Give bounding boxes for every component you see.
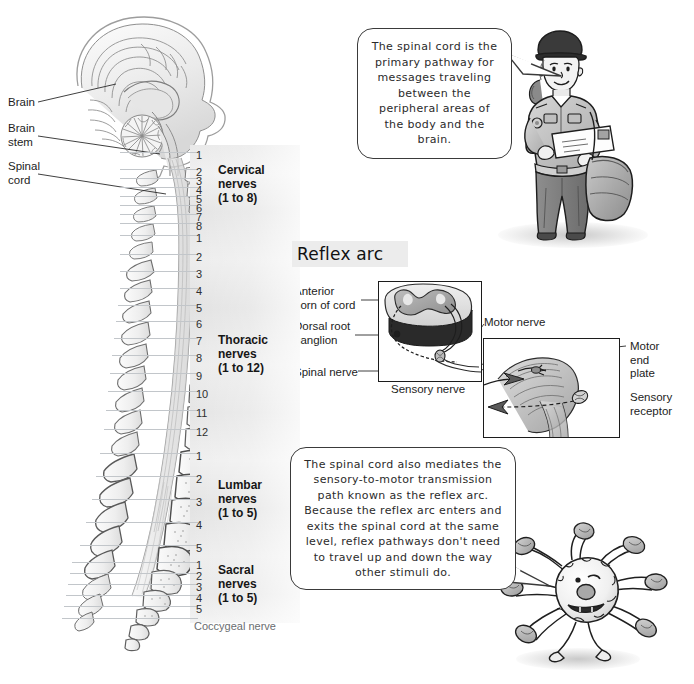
segment-number: 9 [196, 371, 212, 382]
segment-number: 10 [196, 389, 212, 400]
segment-number: 3 [196, 269, 212, 280]
segment-number: 7 [196, 336, 212, 347]
bottom-callout-bubble: The spinal cord also mediates the sensor… [290, 447, 516, 590]
nerve-group-lumbar: Lumbar nerves (1 to 5) [218, 478, 262, 520]
segment-number: 8 [196, 353, 212, 364]
top-callout-text: The spinal cord is the primary pathway f… [370, 39, 499, 148]
reflex-arc-title: Reflex arc [297, 244, 383, 264]
top-callout-bubble: The spinal cord is the primary pathway f… [357, 28, 512, 159]
segment-number: 2 [196, 252, 212, 263]
segment-number: 5 [196, 543, 212, 554]
label-brain-stem: Brain stem [8, 122, 35, 149]
segment-number: 5 [196, 303, 212, 314]
segment-number: 2 [196, 474, 212, 485]
label-brain: Brain [8, 96, 35, 110]
segment-number: 12 [196, 427, 212, 438]
segment-number: 1 [196, 451, 212, 462]
segment-number: 4 [196, 286, 212, 297]
segment-number: 1 [196, 150, 212, 161]
spinal-cord-cross-section-panel [378, 281, 482, 382]
nerve-group-sacral: Sacral nerves (1 to 5) [218, 563, 257, 605]
nerve-group-thoracic: Thoracic nerves (1 to 12) [218, 333, 268, 375]
segment-number: 5 [196, 604, 212, 615]
neuron-character [496, 522, 686, 674]
segment-number: 11 [196, 408, 212, 419]
top-callout-tail [505, 52, 565, 84]
limb-reflex-panel [483, 338, 620, 438]
segment-number: 8 [196, 221, 212, 232]
label-spinal-cord: Spinal cord [8, 160, 40, 187]
diagram-canvas: Brain Brain stem Spinal cord [0, 0, 694, 684]
segment-number: 4 [196, 520, 212, 531]
segment-number: 6 [196, 319, 212, 330]
segment-number: 1 [196, 233, 212, 244]
segment-number: 3 [196, 497, 212, 508]
nerve-group-cervical: Cervical nerves (1 to 8) [218, 163, 265, 205]
label-coccygeal-nerve: Coccygeal nerve [194, 620, 276, 632]
bottom-callout-text: The spinal cord also mediates the sensor… [303, 457, 503, 581]
